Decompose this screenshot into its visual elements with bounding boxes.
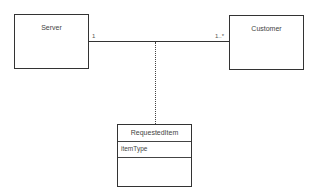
class-requesteditem: RequestedItem itemType [117,124,192,187]
class-server: Server [14,14,89,69]
multiplicity-server: 1 [92,33,95,39]
class-customer-name: Customer [230,25,303,32]
operation-divider [118,157,191,158]
class-customer: Customer [229,15,304,70]
class-server-name: Server [15,24,88,31]
attribute-itemtype: itemType [121,145,147,152]
multiplicity-customer: 1..* [215,33,224,39]
class-requesteditem-name: RequestedItem [118,129,191,136]
attribute-divider [118,141,191,142]
association-class-link [155,42,156,124]
association-line [88,41,230,42]
